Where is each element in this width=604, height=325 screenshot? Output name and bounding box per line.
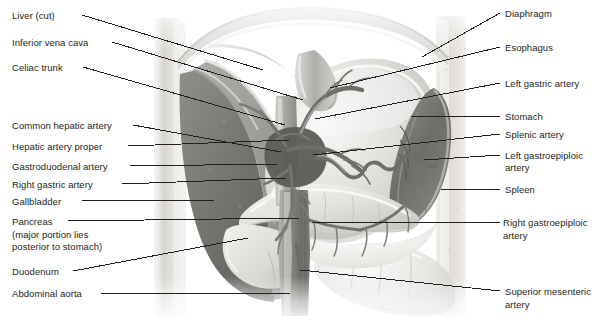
label-abdominal-aorta: Abdominal aorta — [12, 288, 82, 300]
label-inferior-vena-cava: Inferior vena cava — [12, 37, 88, 49]
fade-right — [460, 0, 478, 325]
label-diaphragm: Diaphragm — [505, 8, 552, 20]
illustration-svg — [148, 0, 478, 325]
label-spleen: Spleen — [505, 184, 535, 196]
label-stomach: Stomach — [505, 111, 543, 123]
label-liver-cut: Liver (cut) — [12, 10, 55, 22]
fade-bottom — [148, 276, 478, 325]
label-left-gastroepiploic-1: Left gastroepiploic — [505, 150, 583, 162]
label-esophagus: Esophagus — [505, 42, 553, 54]
label-celiac-trunk: Celiac trunk — [12, 62, 63, 74]
label-pancreas-note-2: posterior to stomach) — [12, 241, 102, 253]
label-gallbladder: Gallbladder — [12, 196, 61, 208]
label-pancreas-note-1: (major portion lies — [12, 229, 88, 241]
label-right-gastroepiploic-2: artery — [503, 230, 528, 242]
label-pancreas: Pancreas — [12, 216, 53, 228]
label-left-gastric-artery: Left gastric artery — [505, 78, 579, 90]
label-gastroduodenal-artery: Gastroduodenal artery — [12, 161, 108, 173]
label-right-gastric-artery: Right gastric artery — [12, 179, 93, 191]
label-superior-mesenteric-1: Superior mesenteric — [505, 286, 591, 298]
label-right-gastroepiploic-1: Right gastroepiploic — [503, 217, 587, 229]
anatomy-figure: Liver (cut)Inferior vena cavaCeliac trun… — [0, 0, 604, 325]
label-left-gastroepiploic-2: artery — [505, 162, 530, 174]
abdominal-viscera-illustration — [148, 0, 478, 325]
fade-top — [148, 0, 478, 52]
label-hepatic-artery-proper: Hepatic artery proper — [12, 141, 102, 153]
label-splenic-artery: Splenic artery — [505, 129, 564, 141]
label-common-hepatic-artery: Common hepatic artery — [12, 120, 112, 132]
label-superior-mesenteric-2: artery — [505, 299, 530, 311]
label-duodenum: Duodenum — [12, 266, 59, 278]
fade-left — [148, 0, 164, 325]
